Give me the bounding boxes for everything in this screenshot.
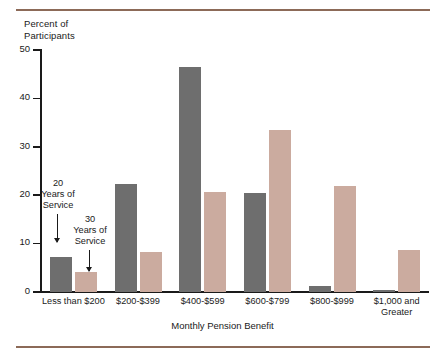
bar-series30	[334, 186, 356, 292]
plot-area	[41, 50, 429, 292]
y-axis-tick-label: 20	[19, 188, 30, 199]
bar-series30	[140, 252, 162, 292]
bar-series20	[373, 290, 395, 292]
x-axis-tick-label: $600-$799	[231, 296, 304, 307]
x-axis-tick-label: $400-$599	[166, 296, 239, 307]
bar-series20	[179, 67, 201, 292]
series-20-annotation-arrow-icon	[57, 214, 58, 242]
series-30-annotation-label: 30 Years of Service	[62, 214, 118, 246]
y-axis-tick-label: 30	[19, 140, 30, 151]
bar-series30	[75, 272, 97, 292]
x-axis-tick-label: $200-$399	[102, 296, 175, 307]
bar-series20	[309, 286, 331, 292]
y-axis-tick: 0	[33, 291, 40, 293]
bar-series30	[204, 192, 226, 292]
y-axis-tick-label: 0	[25, 285, 30, 296]
y-axis-tick: 50	[33, 49, 40, 51]
y-axis-tick: 40	[33, 98, 40, 100]
series-30-annotation-arrow-icon	[89, 250, 90, 271]
x-axis-tick-label: Less than $200	[37, 296, 110, 307]
x-axis-tick-label: $1,000 and Greater	[360, 296, 433, 318]
y-axis-tick: 30	[33, 146, 40, 148]
y-axis-tick-label: 40	[19, 91, 30, 102]
bar-series30	[398, 250, 420, 292]
series-20-annotation-label: 20 Years of Service	[30, 178, 86, 210]
bar-series20	[244, 193, 266, 292]
y-axis-tick-label: 50	[19, 43, 30, 54]
y-axis-title: Percent of Participants	[24, 18, 75, 41]
y-axis-tick: 10	[33, 243, 40, 245]
bar-series30	[269, 130, 291, 292]
y-axis-tick-label: 10	[19, 236, 30, 247]
x-axis-tick-label: $800-$999	[296, 296, 369, 307]
x-axis-title: Monthly Pension Benefit	[0, 320, 445, 331]
bar-series20	[50, 257, 72, 292]
bar-chart: Percent of Participants 01020304050 Less…	[0, 0, 445, 358]
